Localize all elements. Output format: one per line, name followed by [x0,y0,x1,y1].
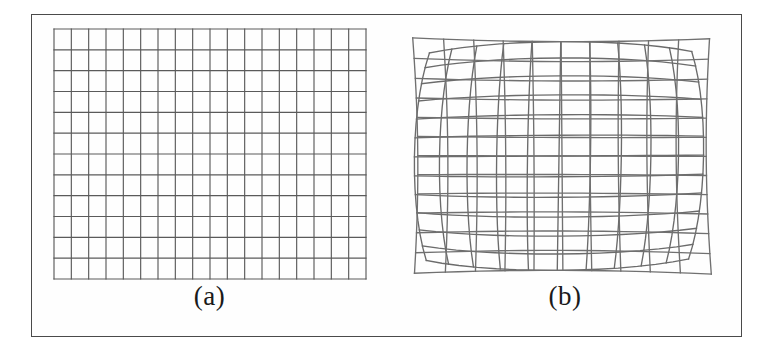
figure-frame: (a) (b) [31,14,742,337]
figure-root: (a) (b) [0,0,771,355]
panel-b: (b) [387,15,743,336]
panel-a-label: (a) [32,283,387,310]
panel-a: (a) [32,15,387,336]
panel-b-label: (b) [387,283,743,310]
